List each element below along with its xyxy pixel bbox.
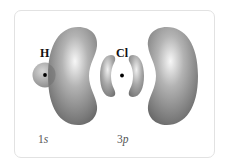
cl-atom-label: Cl	[116, 47, 128, 59]
h-orbital-letter: s	[44, 133, 48, 145]
cl-orbital-label: 3p	[117, 133, 129, 145]
h-nucleus-dot	[43, 73, 47, 77]
cl-3p-inner-right-lobe	[129, 55, 144, 97]
cl-3p-inner-left-lobe	[100, 55, 115, 97]
cl-nucleus-dot	[120, 74, 124, 78]
cl-3p-right-lobe	[148, 27, 198, 125]
orbital-illustration	[0, 0, 231, 168]
h-atom-label: H	[40, 47, 49, 59]
h-orbital-label: 1s	[38, 133, 48, 145]
cl-orbital-letter: p	[123, 133, 129, 145]
